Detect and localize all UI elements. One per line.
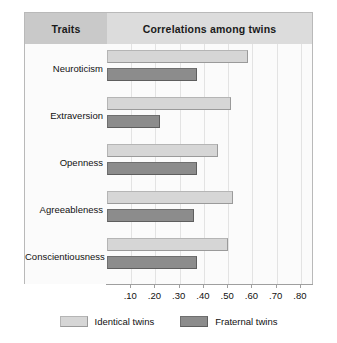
bar-fraternal-conscientiousness	[107, 256, 197, 269]
tick-mark-50	[227, 284, 228, 288]
trait-row: Extraversion	[25, 91, 312, 138]
tick-label-20: .20	[148, 290, 161, 301]
chart-legend: Identical twins Fraternal twins	[0, 316, 337, 327]
tick-label-80: .80	[293, 290, 306, 301]
tick-mark-30	[179, 284, 180, 288]
trait-rows: NeuroticismExtraversionOpennessAgreeable…	[25, 44, 312, 284]
bar-fraternal-neuroticism	[107, 68, 197, 81]
x-axis: .10.20.30.40.50.60.70.80	[24, 284, 313, 308]
trait-row: Conscientiousness	[25, 232, 312, 279]
trait-label-neuroticism: Neuroticism	[25, 62, 103, 73]
bar-identical-openness	[107, 144, 218, 157]
bar-identical-extraversion	[107, 97, 231, 110]
tick-label-50: .50	[221, 290, 234, 301]
trait-row: Neuroticism	[25, 44, 312, 91]
plot-area: NeuroticismExtraversionOpennessAgreeable…	[25, 44, 312, 284]
tick-mark-70	[276, 284, 277, 288]
legend-label-identical: Identical twins	[95, 316, 155, 327]
tick-mark-10	[130, 284, 131, 288]
trait-label-openness: Openness	[25, 156, 103, 167]
bar-identical-neuroticism	[107, 50, 248, 63]
tick-label-10: .10	[124, 290, 137, 301]
tick-label-40: .40	[196, 290, 209, 301]
tick-mark-20	[154, 284, 155, 288]
tick-mark-80	[300, 284, 301, 288]
trait-label-conscientiousness: Conscientiousness	[25, 250, 103, 261]
chart-frame: Traits Correlations among twins Neurotic…	[24, 12, 313, 284]
twin-correlation-chart: Traits Correlations among twins Neurotic…	[0, 0, 337, 343]
tick-mark-60	[251, 284, 252, 288]
legend-item-identical: Identical twins	[60, 316, 155, 327]
header-traits: Traits	[25, 13, 107, 44]
trait-label-extraversion: Extraversion	[25, 109, 103, 120]
legend-swatch-fraternal	[180, 316, 208, 327]
bar-identical-conscientiousness	[107, 238, 228, 251]
table-header-row: Traits Correlations among twins	[25, 13, 312, 44]
tick-label-30: .30	[172, 290, 185, 301]
trait-row: Openness	[25, 138, 312, 185]
header-correlations: Correlations among twins	[107, 13, 312, 44]
tick-mark-40	[203, 284, 204, 288]
bar-fraternal-openness	[107, 162, 197, 175]
trait-label-agreeableness: Agreeableness	[25, 203, 103, 214]
bar-fraternal-agreeableness	[107, 209, 194, 222]
tick-label-70: .70	[269, 290, 282, 301]
legend-item-fraternal: Fraternal twins	[180, 316, 277, 327]
bar-fraternal-extraversion	[107, 115, 160, 128]
legend-swatch-identical	[60, 316, 88, 327]
trait-row: Agreeableness	[25, 185, 312, 232]
legend-label-fraternal: Fraternal twins	[215, 316, 277, 327]
bar-identical-agreeableness	[107, 191, 233, 204]
tick-label-60: .60	[245, 290, 258, 301]
axis-line	[106, 284, 313, 285]
